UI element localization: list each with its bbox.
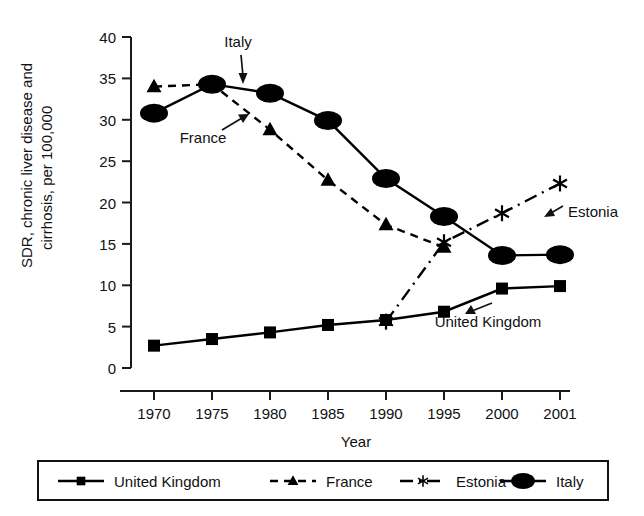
annotation-uk-label: United Kingdom [435, 313, 542, 330]
data-point [263, 122, 278, 135]
annotation-italy-arrowhead [239, 73, 248, 84]
annotation-italy: Italy [224, 33, 252, 84]
data-point [430, 207, 458, 226]
x-ticklabel-1980: 1980 [253, 405, 286, 422]
data-point [314, 111, 342, 130]
series-line [154, 84, 560, 255]
legend-label: Italy [556, 473, 584, 490]
y-ticklabel-10: 10 [99, 277, 116, 294]
y-ticklabel-35: 35 [99, 70, 116, 87]
legend-label: United Kingdom [114, 473, 221, 490]
y-axis-title: SDR, chronic liver disease and cirrhosis… [18, 63, 55, 268]
data-point [206, 333, 218, 345]
x-ticklabel-2000: 2000 [485, 405, 518, 422]
data-point [488, 246, 516, 265]
data-point [322, 319, 334, 331]
legend-items-layer: United KingdomFranceEstoniaItaly [58, 473, 584, 490]
data-point [148, 340, 160, 352]
data-point [140, 104, 168, 123]
y-ticklabel-5: 5 [108, 319, 116, 336]
y-ticklabel-15: 15 [99, 236, 116, 253]
y-axis-title-line2: cirrhosis, per 100,000 [38, 106, 55, 250]
x-axis: 1970 1975 1980 1985 1990 1995 2000 2001 … [120, 391, 577, 450]
data-point [496, 283, 508, 295]
series-france [147, 76, 452, 253]
legend-item-italy[interactable]: Italy [500, 473, 584, 490]
annotation-estonia: Estonia [544, 203, 619, 220]
x-ticklabel-1975: 1975 [195, 405, 228, 422]
annotation-uk-arrow [472, 303, 492, 311]
legend-marker [511, 473, 535, 489]
data-point [553, 175, 567, 191]
chart-figure: 40 35 30 25 20 15 10 5 0 SDR, chronic li… [0, 0, 644, 516]
data-point [198, 75, 226, 94]
data-point [495, 205, 509, 221]
y-axis: 40 35 30 25 20 15 10 5 0 [99, 29, 131, 377]
legend: United KingdomFranceEstoniaItaly [38, 461, 608, 500]
data-point [256, 84, 284, 103]
series-estonia [379, 175, 567, 329]
series-italy [140, 75, 574, 265]
data-point [546, 245, 574, 264]
annotation-france-label: France [180, 129, 227, 146]
data-point [264, 326, 276, 338]
data-point [554, 280, 566, 292]
y-axis-title-line1: SDR, chronic liver disease and [18, 63, 35, 268]
data-point [379, 217, 394, 231]
annotation-france-arrow [222, 118, 242, 130]
y-ticklabel-30: 30 [99, 112, 116, 129]
legend-item-france[interactable]: France [270, 473, 373, 490]
annotation-italy-arrow [241, 55, 243, 76]
legend-item-united-kingdom[interactable]: United Kingdom [58, 473, 221, 490]
annotation-france: France [180, 114, 249, 146]
series-line [154, 84, 444, 247]
chart-svg: 40 35 30 25 20 15 10 5 0 SDR, chronic li… [0, 0, 644, 516]
x-ticklabel-2001: 2001 [543, 405, 576, 422]
annotation-estonia-label: Estonia [568, 203, 619, 220]
data-point [372, 169, 400, 188]
y-ticklabel-40: 40 [99, 29, 116, 46]
x-ticklabel-1970: 1970 [137, 405, 170, 422]
y-ticklabel-25: 25 [99, 153, 116, 170]
annotation-united-kingdom: United Kingdom [435, 303, 542, 330]
legend-marker [77, 477, 86, 486]
legend-item-estonia[interactable]: Estonia [400, 473, 507, 490]
plot-series-layer [140, 75, 574, 352]
y-ticklabel-0: 0 [108, 360, 116, 377]
x-ticklabel-1995: 1995 [427, 405, 460, 422]
legend-label: France [326, 473, 373, 490]
x-axis-title: Year [341, 433, 371, 450]
annotation-italy-label: Italy [224, 33, 252, 50]
x-ticklabel-1990: 1990 [369, 405, 402, 422]
legend-label: Estonia [456, 473, 507, 490]
y-ticklabel-20: 20 [99, 195, 116, 212]
x-ticklabel-1985: 1985 [311, 405, 344, 422]
